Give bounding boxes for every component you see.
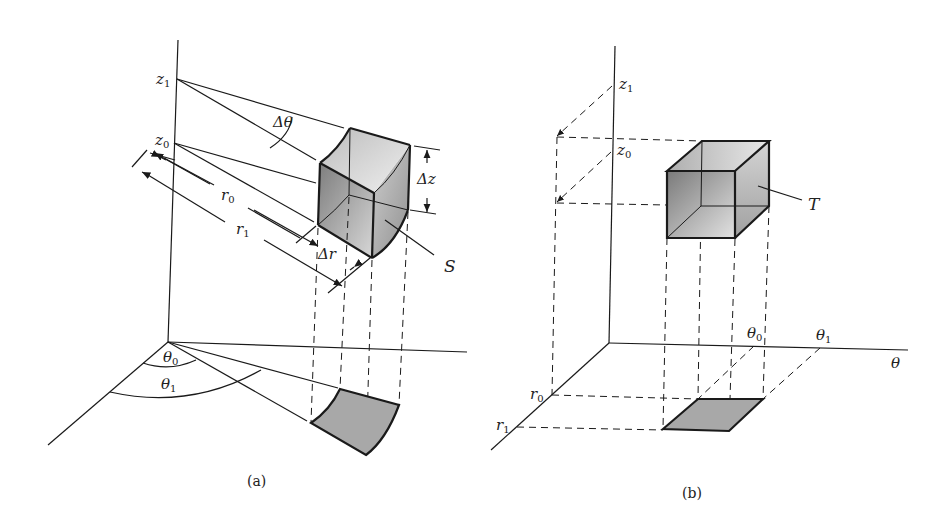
base-patch-b [663, 399, 763, 431]
label-theta0-b: θ0 [747, 326, 762, 343]
label-delta-r: Δr [318, 247, 336, 262]
label-delta-z: Δz [417, 172, 436, 187]
panel-b [491, 46, 908, 450]
label-theta0-a: θ0 [163, 350, 178, 367]
label-s: S [444, 258, 456, 275]
r0-dimension-line [164, 158, 214, 185]
label-r1-b: r1 [496, 418, 510, 435]
label-delta-theta: Δθ [273, 115, 293, 130]
label-theta-axis: θ [891, 356, 900, 371]
caption-a: (a) [247, 473, 266, 489]
theta1-arc [110, 370, 261, 398]
label-r1-a: r1 [236, 222, 250, 239]
label-r0-b: r0 [530, 387, 544, 404]
r1-dimension-line [148, 175, 225, 222]
label-r0-a: r0 [221, 188, 235, 205]
label-z1-b: z1 [619, 77, 633, 94]
theta-axis-b [609, 343, 908, 350]
diagonal-axis-a [48, 342, 168, 445]
label-t: T [808, 196, 819, 213]
base-patch-a [311, 389, 399, 455]
diagram-canvas [0, 0, 945, 528]
label-theta1-b: θ1 [816, 328, 831, 345]
z-axis-b [609, 46, 615, 343]
label-z1-a: z1 [156, 72, 170, 89]
label-theta1-a: θ1 [161, 377, 176, 394]
label-z0-a: z0 [155, 133, 169, 150]
horizontal-axis-a [168, 342, 467, 352]
label-z0-b: z0 [617, 143, 631, 160]
panel-a [48, 40, 467, 455]
caption-b: (b) [682, 485, 702, 501]
